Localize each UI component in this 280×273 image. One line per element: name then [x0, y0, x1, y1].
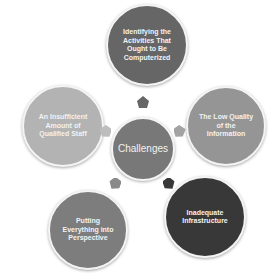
node-putting-everything-perspective: Putting Everything into Perspective	[48, 190, 128, 270]
node-label: The Low Quality of the Information	[188, 113, 264, 139]
node-low-quality-information: The Low Quality of the Information	[186, 86, 266, 166]
arrow-down-right-icon	[163, 178, 175, 190]
node-label: Putting Everything into Perspective	[50, 217, 126, 243]
center-challenges: Challenges	[111, 117, 175, 181]
arrow-down-left-icon	[109, 178, 121, 190]
node-inadequate-infrastructure: Inadequate Infrastructure	[164, 176, 246, 258]
node-label: Identifying the Activities That Ought to…	[108, 28, 186, 62]
arrow-up-icon	[137, 96, 149, 108]
node-label: Inadequate Infrastructure	[166, 209, 244, 226]
node-insufficient-staff: An Insufficient Amount of Qualified Staf…	[22, 85, 104, 167]
arrow-left-icon	[99, 125, 111, 137]
node-label: An Insufficient Amount of Qualified Staf…	[24, 113, 102, 139]
node-identifying-activities: Identifying the Activities That Ought to…	[106, 4, 188, 86]
arrow-right-icon	[174, 125, 186, 137]
center-label: Challenges	[109, 145, 177, 154]
